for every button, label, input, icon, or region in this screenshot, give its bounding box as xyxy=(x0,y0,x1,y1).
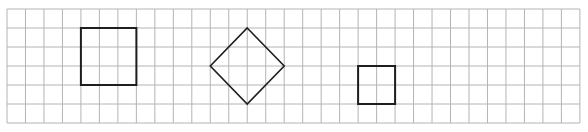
large-square xyxy=(81,28,136,85)
grid-diagram xyxy=(0,0,588,132)
grid-lines xyxy=(7,9,580,123)
